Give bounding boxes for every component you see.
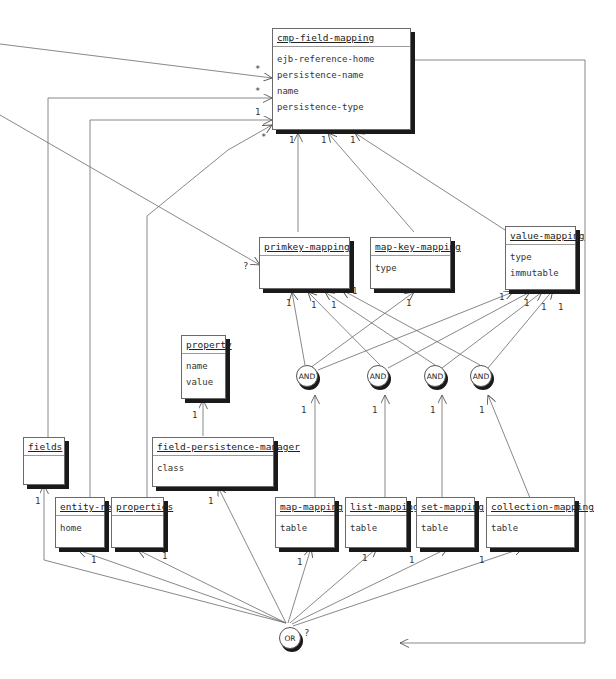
edge-and1-value [318,292,513,370]
attribute: table [350,520,402,536]
multiplicity-label: 1 [297,557,302,567]
multiplicity-label: 1 [362,553,367,563]
and-node-2[interactable]: AND [367,365,389,387]
and-node-1[interactable]: AND [296,365,318,387]
multiplicity-label: 1 [372,405,377,415]
multiplicity-label: 1 [406,298,411,308]
class-title: fields [24,438,64,456]
attribute: table [491,520,570,536]
edge-fields-to-cmp [48,98,272,480]
class-title: collection-mapping [487,498,574,516]
edge-and1-primkey [292,292,305,365]
attribute: name [186,358,221,374]
attribute: class [157,460,269,476]
multiplicity-label: 1 [311,300,316,310]
and-node-4[interactable]: AND [470,365,492,387]
class-title: primkey-mapping [260,238,349,256]
attribute: persistence-type [277,99,406,115]
class-list-mapping[interactable]: list-mapping table [345,497,407,548]
class-title: properties [112,498,163,516]
multiplicity-label: 1 [352,286,357,296]
multiplicity-label: 1 [91,555,96,565]
multiplicity-label: 1 [350,135,355,145]
edge-offpage-to-cmp [0,44,272,78]
class-value-mapping[interactable]: value-mapping type immutable [505,226,576,290]
multiplicity-label: 1 [35,496,40,506]
attribute: home [60,520,100,536]
class-title: property [182,336,225,354]
multiplicity-label: 1 [409,555,414,565]
attribute: value [186,374,221,390]
multiplicity-label: 1 [289,135,294,145]
attribute: immutable [510,265,571,281]
attribute: persistence-name [277,67,406,83]
multiplicity-label: 1 [541,302,546,312]
multiplicity-label: 1 [192,410,197,420]
edge-collectionmapping-and4 [488,395,530,498]
multiplicity-label: ? [304,628,309,638]
class-title: field-persistence-manager [153,438,273,456]
class-map-key-mapping[interactable]: map-key-mapping type [370,237,451,289]
multiplicity-label: 1 [499,292,504,302]
edge-cmp-to-or [400,60,585,643]
class-title: set-mapping [417,498,474,516]
class-title: map-key-mapping [371,238,450,256]
multiplicity-label: 1 [321,135,326,145]
multiplicity-label: 1 [331,300,336,310]
class-collection-mapping[interactable]: collection-mapping table [486,497,575,548]
attribute: table [421,520,470,536]
class-map-mapping[interactable]: map-mapping table [275,497,335,548]
multiplicity-label: * [261,132,266,142]
attribute: type [510,249,571,265]
multiplicity-label: 1 [162,551,167,561]
class-cmp-field-mapping[interactable]: cmp-field-mapping ejb-reference-home per… [272,28,411,130]
class-title: map-mapping [276,498,334,516]
attribute: type [375,260,446,276]
class-title: value-mapping [506,227,575,245]
class-field-persistence-manager[interactable]: field-persistence-manager class [152,437,274,487]
class-primkey-mapping[interactable]: primkey-mapping [259,237,350,289]
multiplicity-label: 1 [430,405,435,415]
multiplicity-label: 1 [558,302,563,312]
class-properties[interactable]: properties [111,497,164,548]
and-node-3[interactable]: AND [424,365,446,387]
multiplicity-label: * [255,86,260,96]
class-title: list-mapping [346,498,406,516]
edge-mapkey-to-cmp [328,133,414,232]
multiplicity-label: ? [243,261,248,271]
edge-offpage-to-primkey [0,115,260,265]
multiplicity-label: 1 [524,298,529,308]
class-fields[interactable]: fields [23,437,65,485]
multiplicity-label: 1 [286,298,291,308]
edge-and3-primkey [325,292,435,365]
multiplicity-label: 1 [301,405,306,415]
class-property[interactable]: property name value [181,335,226,399]
multiplicity-label: 1 [208,496,213,506]
edge-or-setmapping [292,548,448,624]
edge-value-to-cmp [355,133,505,230]
attribute: table [280,520,330,536]
class-title: entity-ref [56,498,104,516]
class-set-mapping[interactable]: set-mapping table [416,497,475,548]
edge-or-properties [138,550,286,623]
class-entity-ref[interactable]: entity-ref home [55,497,105,548]
edge-and2-primkey [308,292,380,365]
edge-or-collectionmapping [293,548,523,626]
or-node[interactable]: OR [279,627,301,649]
class-title: cmp-field-mapping [273,29,410,47]
attribute: name [277,83,406,99]
edge-and1-mapkey [310,292,414,368]
multiplicity-label: 1 [479,555,484,565]
attribute: ejb-reference-home [277,51,406,67]
multiplicity-label: 1 [479,405,484,415]
multiplicity-label: * [255,64,260,74]
multiplicity-label: 1 [255,107,260,117]
